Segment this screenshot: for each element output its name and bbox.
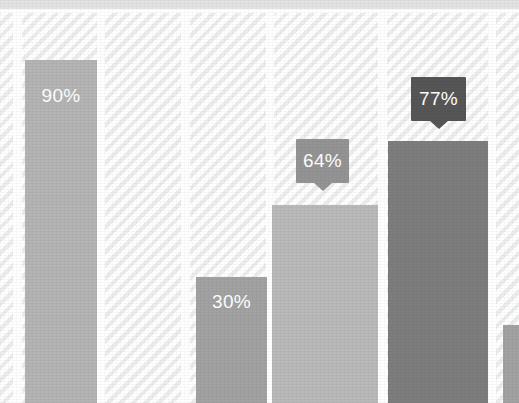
callout-box-64: 64% — [296, 139, 349, 183]
callout-box-77: 77% — [411, 77, 466, 121]
bar-value-label-30: 30% — [196, 291, 267, 313]
top-band — [0, 0, 519, 9]
bar-77[interactable] — [388, 141, 488, 403]
callout-value-label-64: 64% — [303, 150, 342, 172]
callout-77[interactable]: 77% — [411, 77, 466, 121]
callout-value-label-77: 77% — [419, 88, 458, 110]
bar-value-label-90: 90% — [25, 85, 97, 107]
bar-90[interactable]: 90% — [25, 60, 97, 403]
hatch-column-0 — [0, 13, 13, 403]
callout-tail-77 — [430, 121, 448, 129]
hatch-column-2 — [105, 13, 181, 403]
chart-canvas: 90% 30% 64% 77% — [0, 0, 519, 403]
bar-partial-right[interactable] — [503, 325, 519, 403]
callout-tail-64 — [314, 183, 332, 191]
callout-64[interactable]: 64% — [296, 139, 349, 183]
bar-64[interactable] — [272, 205, 378, 403]
bar-30[interactable]: 30% — [196, 277, 267, 403]
